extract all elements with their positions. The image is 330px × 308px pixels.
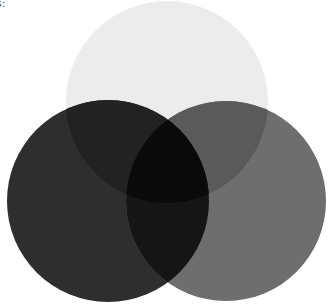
venn-diagram (0, 0, 330, 308)
